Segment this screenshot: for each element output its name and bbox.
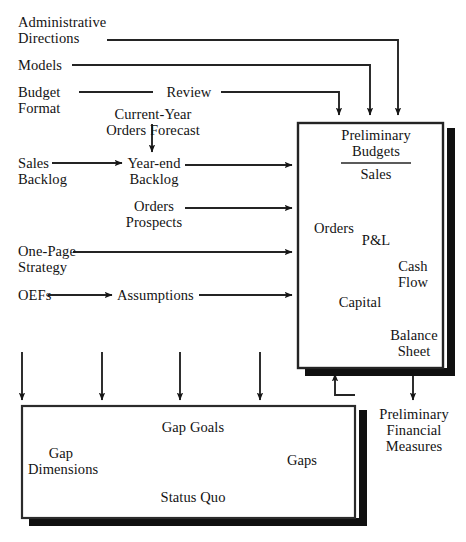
label-balance-sheet: Balance Sheet [387,327,441,359]
wire-administrative-directions [107,40,398,115]
label-administrative-directions: Administrative Directions [18,14,106,46]
label-budget-format: Budget Format [18,84,61,116]
label-year-end-backlog: Year-end Backlog [122,155,186,187]
label-gap-goals: Gap Goals [157,419,229,435]
label-current-year-orders-forecast: Current-Year Orders Forecast [100,106,206,138]
wire-gap-box-to-budget-box [335,374,355,395]
label-preliminary-financial-measures: Preliminary Financial Measures [364,406,464,455]
label-preliminary-budgets: Preliminary Budgets [321,127,431,159]
label-one-page-strategy: One-Page Strategy [18,243,76,275]
label-orders-prospects: Orders Prospects [122,198,186,230]
label-assumptions: Assumptions [117,287,194,303]
label-cash-flow: Cash Flow [391,258,435,290]
wire-review-to-box [221,92,339,115]
label-pandl: P&L [354,232,398,248]
label-status-quo: Status Quo [155,489,231,505]
label-gaps: Gaps [277,452,327,468]
label-sales-backlog: Sales Backlog [18,155,67,187]
label-models: Models [18,57,62,73]
diagram-canvas: Administrative Directions Models Budget … [0,0,466,542]
label-gap-dimensions: Gap Dimensions [28,445,94,477]
label-sales: Sales [341,166,411,182]
label-capital: Capital [332,294,388,310]
label-oefs: OEFs [18,287,51,303]
label-review: Review [157,84,221,100]
